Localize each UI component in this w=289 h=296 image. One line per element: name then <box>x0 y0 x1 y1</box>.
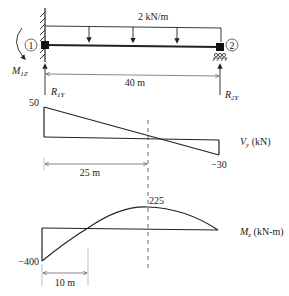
distributed-load <box>45 26 221 42</box>
moment-label: M1Z <box>11 65 28 78</box>
fixed-support <box>40 8 45 62</box>
moment-diagram <box>42 207 218 261</box>
load-label: 2 kN/m <box>138 11 169 22</box>
node-1 <box>41 41 49 49</box>
svg-text:1: 1 <box>29 40 34 51</box>
shear-dist-label: 25 m <box>80 167 101 178</box>
shear-axis-label: Vy (kN) <box>240 136 271 149</box>
moment-min-label: −400 <box>18 256 39 267</box>
node-2-marker: 2 <box>226 39 238 51</box>
svg-text:2: 2 <box>230 40 235 51</box>
span-label: 40 m <box>125 77 146 88</box>
beam <box>45 45 220 47</box>
shear-min-label: −30 <box>211 159 227 170</box>
reaction-2-label: R2Y <box>224 89 240 102</box>
moment-dist-label: 10 m <box>55 277 76 288</box>
span-dimension <box>46 74 219 76</box>
shear-max-label: 50 <box>29 97 39 108</box>
reaction-1-label: R1Y <box>50 86 66 99</box>
node-2 <box>216 43 224 51</box>
shear-diagram <box>44 107 219 155</box>
beam-diagram: 2 kN/m 1 2 M1Z R1Y R2Y 40 m 50 −30 Vy (k… <box>0 0 289 296</box>
moment-max-label: 225 <box>149 195 164 206</box>
moment-axis-label: Mz (kN-m) <box>239 226 284 239</box>
moment-arrow-icon <box>16 28 24 58</box>
roller-support <box>213 53 227 61</box>
node-1-marker: 1 <box>25 39 37 51</box>
